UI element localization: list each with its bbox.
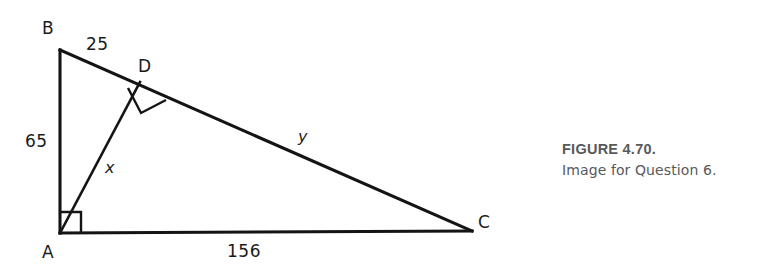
figure-caption-title: FIGURE 4.70. bbox=[562, 142, 772, 158]
figure-container: B D A C 25 65 156 x y FIGURE 4.70. Image… bbox=[0, 0, 780, 277]
measure-label-ab: 65 bbox=[25, 133, 48, 150]
segment-ac bbox=[60, 231, 472, 233]
measure-label-ad: x bbox=[105, 160, 114, 176]
vertex-label-c: C bbox=[478, 214, 490, 231]
vertex-label-d: D bbox=[138, 58, 152, 75]
measure-label-bd: 25 bbox=[86, 36, 109, 53]
measure-label-ac: 156 bbox=[227, 243, 261, 260]
geometry-diagram bbox=[0, 0, 520, 277]
vertex-label-b: B bbox=[42, 20, 54, 37]
figure-caption: FIGURE 4.70. Image for Question 6. bbox=[562, 142, 772, 178]
figure-caption-subtitle: Image for Question 6. bbox=[562, 163, 772, 178]
vertex-label-a: A bbox=[42, 244, 54, 261]
segment-bc bbox=[60, 50, 472, 231]
measure-label-dc: y bbox=[298, 129, 307, 145]
segment-ad bbox=[60, 82, 140, 233]
